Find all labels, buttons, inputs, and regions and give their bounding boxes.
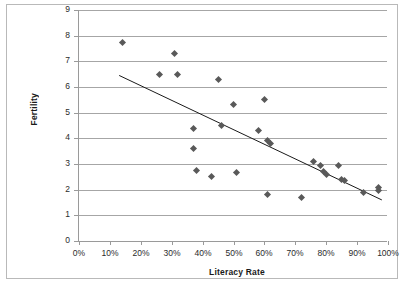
x-tick-10 bbox=[110, 241, 111, 245]
x-tick-60 bbox=[264, 241, 265, 245]
x-tick-70 bbox=[295, 241, 296, 245]
y-tick-label-5: 5 bbox=[48, 108, 70, 117]
x-axis-title: Literacy Rate bbox=[157, 267, 317, 277]
y-tick-label-9: 9 bbox=[48, 5, 70, 14]
x-tick-20 bbox=[141, 241, 142, 245]
y-axis-title: Fertility bbox=[29, 93, 43, 126]
y-tick-label-7: 7 bbox=[48, 56, 70, 65]
chart-screenshot: Fertility Literacy Rate 0123456789 0%10%… bbox=[0, 0, 407, 286]
chart-object-frame[interactable]: Fertility Literacy Rate 0123456789 0%10%… bbox=[6, 4, 398, 279]
y-tick-label-0: 0 bbox=[48, 236, 70, 245]
x-tick-50 bbox=[234, 241, 235, 245]
x-tick-30 bbox=[172, 241, 173, 245]
y-tick-label-8: 8 bbox=[48, 31, 70, 40]
x-tick-90 bbox=[357, 241, 358, 245]
x-tick-100 bbox=[388, 241, 389, 245]
plot-area[interactable]: 0123456789 0%10%20%30%40%50%60%70%80%90%… bbox=[78, 10, 387, 241]
trendline bbox=[79, 10, 388, 241]
gridline-y-0 bbox=[79, 241, 387, 242]
y-tick-label-1: 1 bbox=[48, 210, 70, 219]
y-tick-label-3: 3 bbox=[48, 159, 70, 168]
x-tick-0 bbox=[79, 241, 80, 245]
x-tick-40 bbox=[203, 241, 204, 245]
x-tick-80 bbox=[326, 241, 327, 245]
x-tick-label-100: 100% bbox=[368, 248, 407, 258]
y-tick-label-4: 4 bbox=[48, 133, 70, 142]
y-tick-label-6: 6 bbox=[48, 82, 70, 91]
y-tick-label-2: 2 bbox=[48, 185, 70, 194]
